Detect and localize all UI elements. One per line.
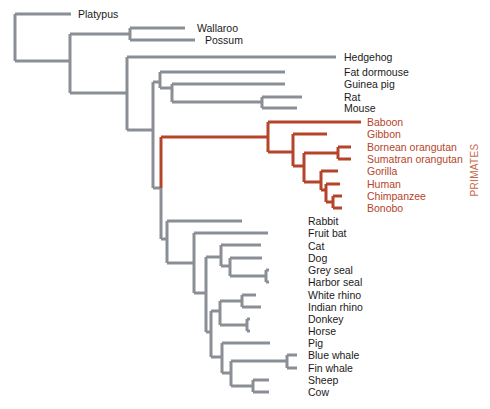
- leaf-label-harbor-seal: Harbor seal: [308, 276, 362, 288]
- leaf-label-rabbit: Rabbit: [308, 215, 338, 227]
- leaf-label-cow: Cow: [308, 386, 329, 398]
- leaf-label-cat: Cat: [308, 240, 324, 252]
- leaf-label-wallaroo: Wallaroo: [197, 22, 238, 34]
- leaf-label-indian-rhino: Indian rhino: [308, 301, 363, 313]
- leaf-label-white-rhino: White rhino: [308, 289, 361, 301]
- leaf-label-fin-whale: Fin whale: [308, 362, 353, 374]
- leaf-label-donkey: Donkey: [308, 313, 344, 325]
- leaf-label-possum: Possum: [205, 34, 243, 46]
- leaf-label-mouse: Mouse: [344, 102, 376, 114]
- leaf-label-grey-seal: Grey seal: [308, 264, 353, 276]
- leaf-label-hedgehog: Hedgehog: [344, 51, 393, 63]
- leaf-label-platypus: Platypus: [78, 8, 118, 20]
- primates-group-label: PRIMATES: [469, 144, 480, 197]
- leaf-label-gibbon: Gibbon: [367, 128, 401, 140]
- leaf-label-pig: Pig: [308, 337, 323, 349]
- leaf-label-gorilla: Gorilla: [367, 165, 398, 177]
- leaf-label-chimpanzee: Chimpanzee: [367, 190, 426, 202]
- leaf-label-sheep: Sheep: [308, 374, 339, 386]
- leaf-label-fruit-bat: Fruit bat: [308, 227, 347, 239]
- leaf-label-horse: Horse: [308, 325, 336, 337]
- phylogenetic-tree: PlatypusWallarooPossumHedgehogFat dormou…: [0, 0, 490, 409]
- leaf-label-sumatran-orangutan: Sumatran orangutan: [367, 153, 463, 165]
- leaf-label-guinea-pig: Guinea pig: [344, 78, 395, 90]
- leaf-label-bonobo: Bonobo: [367, 202, 403, 214]
- leaf-label-fat-dormouse: Fat dormouse: [344, 66, 409, 78]
- leaf-label-bornean-orangutan: Bornean orangutan: [367, 141, 457, 153]
- leaf-label-baboon: Baboon: [367, 116, 403, 128]
- leaf-label-human: Human: [367, 178, 401, 190]
- leaf-label-dog: Dog: [308, 252, 327, 264]
- leaf-labels: PlatypusWallarooPossumHedgehogFat dormou…: [78, 8, 463, 398]
- leaf-label-blue-whale: Blue whale: [308, 349, 360, 361]
